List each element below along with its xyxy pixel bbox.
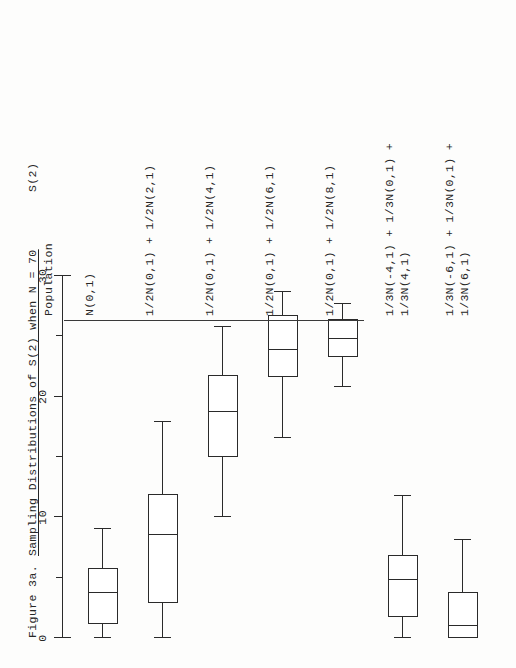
axis-rule: [62, 276, 63, 638]
box-iqr: [208, 375, 238, 457]
whisker-cap: [274, 437, 291, 438]
figure-number: Figure 3a.: [26, 565, 39, 638]
whisker-cap: [214, 516, 231, 517]
axis-tick: [56, 456, 62, 457]
boxplot-chart: 0102030: [56, 0, 256, 668]
population-label-line: 1/2N(0,1) + 1/2N(2,1): [143, 165, 156, 316]
boxplot: [146, 0, 180, 668]
population-label-line: 1/2N(0,1) + 1/2N(8,1): [323, 165, 336, 316]
population-label-line: 1/3N(-6,1) + 1/3N(0,1) +: [443, 143, 456, 316]
boxplot: [86, 0, 120, 668]
whisker-cap: [394, 495, 411, 496]
median-line: [448, 625, 478, 626]
population-column-header: Population: [42, 243, 55, 316]
axis-tick: [56, 335, 62, 336]
population-label: 1/2N(0,1) + 1/2N(8,1): [322, 165, 337, 316]
boxplot: [446, 0, 480, 668]
population-label-line: 1/2N(0,1) + 1/2N(4,1): [203, 165, 216, 316]
boxplot: [206, 0, 240, 668]
axis-end-cap: [62, 637, 71, 638]
box-iqr: [148, 494, 178, 603]
axis-tick-label: 20: [36, 389, 49, 404]
axis-tick: [54, 637, 62, 638]
population-label: 1/2N(0,1) + 1/2N(4,1): [202, 165, 217, 316]
population-label: 1/3N(-4,1) + 1/3N(0,1) +1/3N(4,1): [382, 143, 412, 316]
figure-caption: Figure 3a.Sampling Distributions of S(2)…: [26, 249, 39, 638]
box-iqr: [88, 568, 118, 624]
box-iqr: [388, 555, 418, 618]
population-label: 1/2N(0,1) + 1/2N(6,1): [262, 165, 277, 316]
whisker-cap: [154, 421, 171, 422]
whisker-cap: [94, 528, 111, 529]
median-line: [328, 338, 358, 339]
population-label-line: 1/3N(4,1): [397, 143, 412, 316]
header-rule: [64, 320, 364, 321]
box-iqr: [448, 592, 478, 638]
axis-tick-label: 0: [36, 634, 49, 641]
population-label-line: 1/2N(0,1) + 1/2N(6,1): [263, 165, 276, 316]
rotated-figure: Figure 3a.Sampling Distributions of S(2)…: [0, 0, 516, 668]
whisker-cap: [454, 539, 471, 540]
median-line: [388, 579, 418, 580]
value-axis-label: S(2): [26, 163, 39, 192]
box-iqr: [268, 315, 298, 378]
boxplot: [386, 0, 420, 668]
axis-tick: [54, 396, 62, 397]
axis-tick: [56, 577, 62, 578]
axis-tick: [54, 275, 62, 276]
population-label: N(0,1): [82, 273, 97, 316]
population-label: 1/3N(-6,1) + 1/3N(0,1) +1/3N(6,1): [442, 143, 472, 316]
population-label-line: N(0,1): [83, 273, 96, 316]
whisker-cap: [214, 326, 231, 327]
whisker-cap: [334, 386, 351, 387]
boxplot: [326, 0, 360, 668]
median-line: [268, 349, 298, 350]
axis-end-cap: [62, 275, 71, 276]
whisker-cap: [94, 637, 111, 638]
boxplot: [266, 0, 300, 668]
median-line: [208, 411, 238, 412]
whisker-cap: [154, 637, 171, 638]
axis-tick-label: 10: [36, 510, 49, 525]
axis-tick: [54, 516, 62, 517]
population-label-line: 1/3N(6,1): [457, 143, 472, 316]
median-line: [88, 592, 118, 593]
population-label-line: 1/3N(-4,1) + 1/3N(0,1) +: [383, 143, 396, 316]
population-label: 1/2N(0,1) + 1/2N(2,1): [142, 165, 157, 316]
whisker-cap: [394, 637, 411, 638]
scanned-page: Figure 3a.Sampling Distributions of S(2)…: [0, 0, 516, 668]
median-line: [148, 534, 178, 535]
